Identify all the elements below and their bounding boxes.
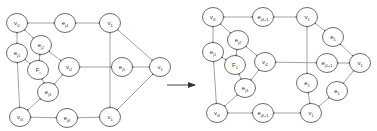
left-edge [117,74,153,110]
left-node-ej2: ej2 [31,36,52,55]
right-edge [224,95,237,107]
left-edge [30,117,56,118]
left-node-ej5: ej5 [112,58,133,77]
right-node-e1: e1 [327,82,348,101]
left-node-vi2: vi2 [59,58,80,77]
left-graph: vi1ej4v1ej2ej1Fivi2ej5v1ej3vi3ej6v1 [7,14,171,128]
right-node-vi3: vi3 [207,104,228,123]
right-edge [220,24,230,33]
left-node-ej1: ej1 [7,44,28,63]
right-node-vi2: vi2 [255,53,276,72]
left-node-v1: v1 [100,108,121,127]
right-edge [246,46,257,55]
right-node-vi1: vi1 [203,8,224,27]
right-edge [319,97,330,106]
right-node-ej1: ej1 [203,43,224,62]
right-edge [275,62,316,63]
left-node-ej3: ej3 [38,83,59,102]
right-edge [308,92,309,103]
right-node-ej4+1: ej4+1 [253,8,274,27]
right-edge [343,71,353,84]
left-node-v1: v1 [150,58,171,77]
right-edge [315,23,325,31]
left-edge [17,62,19,107]
left-edge [24,30,33,38]
diagram-svg: vi1ej4v1ej2ej1Fivi2ej5v1ej3vi3ej6v1 vi1e… [0,0,377,131]
right-node-F1: F1 [225,56,246,75]
right-edge [214,61,217,103]
right-node-e1: e1 [323,28,344,47]
right-edge [251,70,259,80]
right-edge [340,44,353,56]
left-node-Fi: Fi [28,61,49,80]
left-node-vi1: vi1 [7,14,28,33]
right-node-v1: v1 [350,54,371,73]
right-node-ej5+1: ej5+1 [317,54,338,73]
right-node-v1: v1 [301,104,322,123]
left-edge [49,51,61,61]
left-node-ej4: ej4 [55,14,76,33]
right-node-v1: v1 [297,8,318,27]
left-edge [77,117,99,118]
left-node-ej6: ej6 [57,109,78,128]
right-graph: vi1ej4+1v1e1ej2ej1F1vi2ej5+1v1e1e1ej3vi3… [203,8,371,123]
right-node-ej3: ej3 [235,79,256,98]
left-node-vi3: vi3 [10,108,31,127]
right-node-e1: e1 [297,74,318,93]
left-edge [25,59,30,63]
left-node-v1: v1 [100,14,121,33]
right-node-ej6+1: ej6+1 [253,104,274,123]
left-edge [54,75,62,85]
right-node-ej2: ej2 [228,31,249,50]
graph-transformation-diagram: vi1ej4v1ej2ej1Fivi2ej5v1ej3vi3ej6v1 vi1e… [0,0,377,131]
left-edge [27,99,40,111]
left-edge [118,30,153,61]
